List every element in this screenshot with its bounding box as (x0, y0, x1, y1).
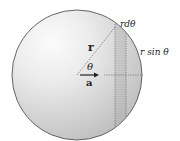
label-rsintheta: r sin θ (140, 48, 169, 57)
label-r-vector: r (88, 42, 94, 53)
label-theta: θ (87, 62, 93, 72)
label-a-vector: a (86, 78, 92, 88)
label-rdtheta: rdθ (120, 20, 135, 29)
